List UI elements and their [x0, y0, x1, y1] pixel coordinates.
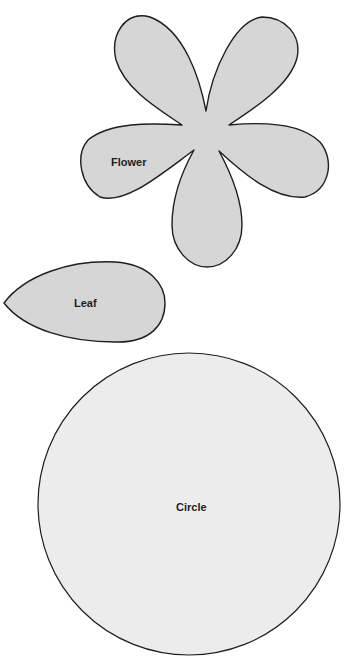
leaf-label: Leaf: [74, 297, 97, 309]
template-canvas: Flower Leaf Circle: [0, 0, 349, 672]
leaf-shape[interactable]: Leaf: [4, 262, 165, 342]
flower-outline: [81, 16, 329, 267]
flower-shape[interactable]: Flower: [81, 16, 329, 267]
circle-shape[interactable]: Circle: [38, 353, 340, 655]
flower-label: Flower: [111, 156, 147, 168]
circle-label: Circle: [176, 501, 207, 513]
